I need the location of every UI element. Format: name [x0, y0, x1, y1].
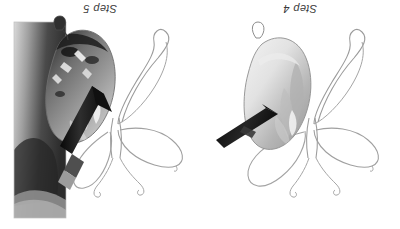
painted-wing-tip — [252, 22, 264, 38]
artwork-step-4 — [200, 0, 400, 229]
pencil-outline-lower-right-wing — [118, 128, 182, 167]
panel-step-4: Step 4 — [200, 0, 400, 229]
tutorial-page: Step 5 — [0, 0, 400, 229]
pencil-outline-lower-right-wing — [314, 128, 378, 167]
pencil-outline-antenna-left — [94, 158, 113, 197]
pencil-outline-antenna-right — [316, 158, 340, 195]
painted-wing-tip — [54, 16, 66, 30]
artwork-step-5 — [0, 0, 200, 229]
pencil-outline-antenna-right — [120, 158, 144, 195]
pencil-outline-upper-right-wing — [314, 30, 365, 124]
painted-wing-light — [244, 22, 311, 149]
pencil-outline-upper-right-wing — [118, 30, 169, 124]
pencil-outline-antenna-left — [290, 158, 309, 197]
pencil-outline-body-left — [307, 118, 309, 158]
panel-step-5: Step 5 — [0, 0, 200, 229]
